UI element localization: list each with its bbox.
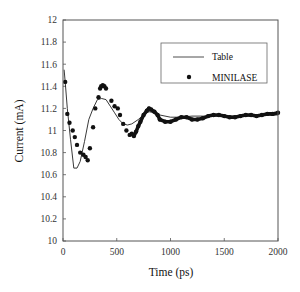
minilase-point xyxy=(73,135,77,139)
y-tick-label: 11.4 xyxy=(41,82,58,92)
y-tick-label: 11.8 xyxy=(41,37,58,47)
y-tick-label: 10 xyxy=(48,236,58,246)
legend-label-minilase: MINILASE xyxy=(212,73,258,83)
minilase-dense-markers xyxy=(132,108,278,136)
x-tick-label: 500 xyxy=(110,247,125,257)
minilase-point xyxy=(124,128,128,132)
y-tick-label: 12 xyxy=(48,15,58,25)
x-tick-label: 1500 xyxy=(215,247,234,257)
legend-label-table: Table xyxy=(212,52,233,62)
minilase-point xyxy=(65,112,69,116)
y-tick-label: 10.2 xyxy=(40,214,57,224)
minilase-point xyxy=(88,146,92,150)
minilase-point xyxy=(91,125,95,129)
minilase-point xyxy=(86,158,90,162)
y-tick-label: 11 xyxy=(48,126,57,136)
current-vs-time-chart: 1010.210.410.610.81111.211.411.611.812 0… xyxy=(0,0,300,292)
minilase-point xyxy=(121,122,125,126)
minilase-point xyxy=(109,99,113,103)
y-tick-label: 10.4 xyxy=(40,192,57,202)
minilase-point xyxy=(116,106,120,110)
y-tick-label: 10.8 xyxy=(40,148,57,158)
minilase-point xyxy=(63,80,67,84)
minilase-point xyxy=(71,128,75,132)
minilase-point xyxy=(67,121,71,125)
y-tick-label: 11.6 xyxy=(41,60,58,70)
legend-dot-icon xyxy=(187,75,191,79)
x-tick-label: 1000 xyxy=(161,247,180,257)
minilase-series-markers xyxy=(63,80,280,163)
x-axis-title: Time (ps) xyxy=(149,266,194,279)
x-tick-label: 0 xyxy=(61,247,66,257)
minilase-point xyxy=(75,143,79,147)
y-axis-ticks: 1010.210.410.610.81111.211.411.611.812 xyxy=(40,15,66,246)
legend: Table MINILASE xyxy=(161,43,267,83)
table-series-line xyxy=(64,70,278,168)
table-line xyxy=(64,70,278,168)
minilase-point xyxy=(118,113,122,117)
x-tick-label: 2000 xyxy=(269,247,288,257)
y-axis-title: Current (mA) xyxy=(13,99,26,162)
minilase-point xyxy=(104,86,108,90)
minilase-point xyxy=(93,106,97,110)
y-tick-label: 11.2 xyxy=(41,104,58,114)
minilase-point xyxy=(96,95,100,99)
y-tick-label: 10.6 xyxy=(40,170,57,180)
